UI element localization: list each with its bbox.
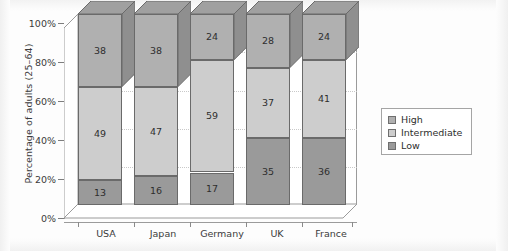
x-tick-label-germany: Germany (200, 228, 244, 239)
x-tick-label-france: France (315, 228, 347, 239)
y-tick-label-100: 100% (22, 18, 56, 29)
bar-japan-top-face (134, 1, 192, 15)
scan-artifact-bottom (0, 237, 508, 251)
bar-usa-segment-high: 38 (78, 14, 122, 87)
bar-usa-value-high: 38 (94, 46, 106, 56)
legend-item-low[interactable]: Low (388, 139, 471, 152)
bar-uk-value-low: 35 (262, 167, 274, 177)
bar-france-value-intermediate: 41 (318, 94, 330, 104)
bar-france-segment-low: 36 (302, 138, 346, 205)
legend-item-high[interactable]: High (388, 113, 471, 126)
chart-figure: Percentage of adults (25–64) 100% 80% 60… (0, 0, 508, 251)
y-tick-label-80: 80% (22, 57, 56, 68)
x-axis-line (64, 222, 357, 223)
bar-germany-segment-high: 24 (190, 14, 234, 60)
y-tick-label-40: 40% (22, 135, 56, 146)
x-tick-mark-4 (302, 222, 303, 227)
bar-uk-top-face (246, 1, 304, 15)
bar-germany-segment-low: 17 (190, 173, 234, 206)
x-tick-mark-1 (134, 222, 135, 227)
bar-uk-segment-high: 28 (246, 14, 290, 68)
scan-artifact-left (0, 0, 10, 251)
y-tick-label-60: 60% (22, 96, 56, 107)
legend-label-high: High (401, 115, 423, 125)
y-axis-tick-labels: 100% 80% 60% 40% 20% 0% (20, 0, 56, 251)
x-tick-mark-5 (352, 222, 353, 227)
legend-swatch-intermediate-icon (388, 129, 396, 137)
bar-japan-value-intermediate: 47 (150, 127, 162, 137)
legend-label-low: Low (401, 141, 420, 151)
bar-germany[interactable]: 24 59 17 (190, 14, 234, 205)
bar-france-value-high: 24 (318, 32, 330, 42)
bar-usa-segment-intermediate: 49 (78, 87, 122, 181)
plot-floor (64, 203, 357, 219)
legend-item-intermediate[interactable]: Intermediate (388, 126, 471, 139)
chart-legend: High Intermediate Low (381, 108, 472, 155)
legend-label-intermediate: Intermediate (401, 128, 462, 138)
bar-usa-value-intermediate: 49 (94, 129, 106, 139)
x-tick-mark-0 (78, 222, 79, 227)
y-tick-label-20: 20% (22, 174, 56, 185)
bar-japan[interactable]: 38 47 16 (134, 14, 178, 205)
plot-area: 38 49 13 38 47 (64, 14, 357, 219)
bar-usa-value-low: 13 (94, 188, 106, 198)
legend-swatch-high-icon (388, 116, 396, 124)
bar-france-segment-intermediate: 41 (302, 60, 346, 138)
bar-uk[interactable]: 28 37 35 (246, 14, 290, 205)
x-tick-mark-2 (190, 222, 191, 227)
bar-uk-segment-intermediate: 37 (246, 68, 290, 139)
bar-germany-top-face (190, 1, 248, 15)
bar-france[interactable]: 24 41 36 (302, 14, 346, 205)
legend-swatch-low-icon (388, 142, 396, 150)
bar-japan-segment-intermediate: 47 (134, 87, 178, 177)
bar-japan-value-low: 16 (150, 186, 162, 196)
bar-uk-segment-low: 35 (246, 138, 290, 205)
bar-japan-segment-low: 16 (134, 176, 178, 205)
y-tick-label-0: 0% (22, 213, 56, 224)
bar-usa-segment-low: 13 (78, 180, 122, 205)
x-tick-label-japan: Japan (150, 228, 177, 239)
bar-uk-value-intermediate: 37 (262, 98, 274, 108)
bar-france-segment-high: 24 (302, 14, 346, 60)
bar-japan-value-high: 38 (150, 46, 162, 56)
bar-france-value-low: 36 (318, 167, 330, 177)
bar-germany-value-intermediate: 59 (206, 111, 218, 121)
x-tick-mark-3 (246, 222, 247, 227)
bar-uk-value-high: 28 (262, 36, 274, 46)
bar-germany-value-high: 24 (206, 32, 218, 42)
bar-japan-segment-high: 38 (134, 14, 178, 87)
bar-germany-segment-intermediate: 59 (190, 60, 234, 173)
bar-usa[interactable]: 38 49 13 (78, 14, 122, 205)
scan-artifact-right (496, 0, 508, 251)
x-tick-label-usa: USA (96, 228, 116, 239)
x-tick-label-uk: UK (270, 228, 283, 239)
bar-france-top-face (302, 1, 360, 15)
bar-germany-value-low: 17 (206, 184, 218, 194)
bar-usa-top-face (78, 1, 136, 15)
